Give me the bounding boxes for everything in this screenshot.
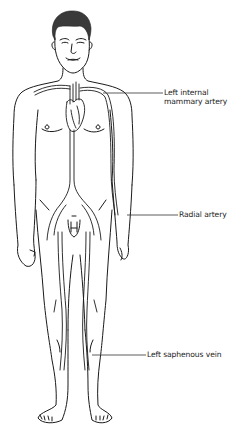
label-line-1: Left saphenous vein [147,350,221,359]
label-line-1: Radial artery [179,210,227,219]
legs [36,210,112,423]
arms [14,180,132,266]
label-left-saphenous-vein: Left saphenous vein [147,350,221,359]
human-figure-drawing [0,0,231,447]
label-line-2: mammary artery [164,97,227,106]
label-left-internal-mammary-artery: Left internal mammary artery [164,88,227,106]
body-diagram: Left internal mammary artery Radial arte… [0,0,231,447]
label-radial-artery: Radial artery [179,210,227,219]
heart [66,82,85,132]
head [52,11,92,73]
label-line-1: Left internal [164,88,227,97]
genitals [68,216,80,237]
